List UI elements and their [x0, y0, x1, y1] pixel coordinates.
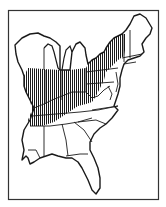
map-svg [0, 0, 166, 207]
michigan-lower-peninsula [44, 44, 72, 70]
land-mass [15, 14, 152, 194]
range-map [0, 0, 166, 207]
